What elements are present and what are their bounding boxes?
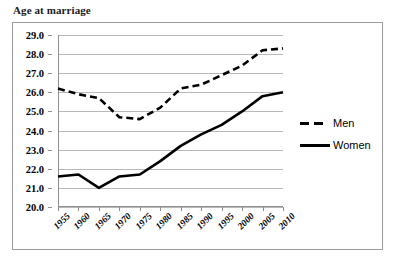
x-axis-tick-label: 1965 bbox=[92, 211, 113, 232]
y-axis-tick bbox=[48, 111, 52, 112]
x-axis-tick-label: 1990 bbox=[195, 211, 216, 232]
y-axis-tick-label: 23.0 bbox=[26, 144, 44, 155]
legend-item-men: Men bbox=[300, 112, 380, 134]
y-axis-tick bbox=[48, 188, 52, 189]
chart-figure: Age at marriage 20.021.022.023.024.025.0… bbox=[0, 0, 400, 267]
chart-legend: Men Women bbox=[300, 112, 380, 156]
plot-area bbox=[58, 35, 283, 207]
y-axis-tick-label: 21.0 bbox=[26, 182, 44, 193]
x-axis-tick-label: 1985 bbox=[174, 211, 195, 232]
y-axis-tick bbox=[48, 131, 52, 132]
y-axis-tick bbox=[48, 92, 52, 93]
legend-item-women: Women bbox=[300, 134, 380, 156]
x-axis-tick-label: 1995 bbox=[215, 211, 236, 232]
y-axis-tick-label: 28.0 bbox=[26, 49, 44, 60]
y-axis-tick-label: 20.0 bbox=[26, 202, 44, 213]
x-axis-tick-labels: 1955196019651970197519801985199019952000… bbox=[58, 211, 290, 251]
x-axis-tick-label: 1970 bbox=[113, 211, 134, 232]
y-axis-tick-label: 22.0 bbox=[26, 163, 44, 174]
y-axis-tick-label: 24.0 bbox=[26, 125, 44, 136]
series-line-women bbox=[58, 92, 283, 188]
chart-title: Age at marriage bbox=[13, 4, 91, 16]
y-axis-tick-label: 29.0 bbox=[26, 30, 44, 41]
y-axis-tick bbox=[48, 207, 52, 208]
y-axis-tick bbox=[48, 73, 52, 74]
y-axis-labels: 20.021.022.023.024.025.026.027.028.029.0 bbox=[0, 35, 52, 207]
legend-key-solid-icon bbox=[300, 140, 330, 150]
series-lines bbox=[58, 35, 283, 207]
x-axis-tick-label: 1980 bbox=[154, 211, 175, 232]
y-axis-tick-label: 27.0 bbox=[26, 68, 44, 79]
x-axis-tick-label: 2000 bbox=[236, 211, 257, 232]
y-axis-tick bbox=[48, 54, 52, 55]
y-axis-tick bbox=[48, 169, 52, 170]
y-axis-tick bbox=[48, 35, 52, 36]
x-axis-tick-label: 1960 bbox=[72, 211, 93, 232]
legend-label-men: Men bbox=[333, 117, 354, 129]
series-line-men bbox=[58, 48, 283, 119]
x-axis-tick-label: 2005 bbox=[256, 211, 277, 232]
y-axis-tick-label: 26.0 bbox=[26, 87, 44, 98]
legend-key-dashed-icon bbox=[300, 118, 330, 128]
x-axis-tick-label: 1975 bbox=[133, 211, 154, 232]
y-axis-tick bbox=[48, 150, 52, 151]
legend-label-women: Women bbox=[333, 139, 371, 151]
gridline bbox=[58, 207, 283, 208]
y-axis-tick-label: 25.0 bbox=[26, 106, 44, 117]
